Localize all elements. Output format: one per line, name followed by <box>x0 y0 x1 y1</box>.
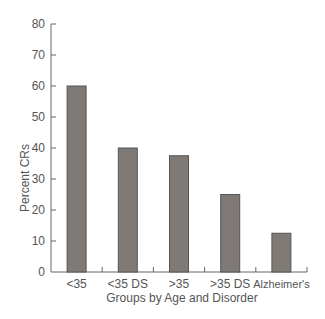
bar <box>272 233 291 272</box>
y-tick-label: 30 <box>32 172 46 186</box>
x-tick-label: >35 DS <box>210 277 250 291</box>
bars <box>67 86 291 272</box>
bar <box>67 86 86 272</box>
x-tick-label: <35 <box>66 277 87 291</box>
y-tick-label: 70 <box>32 48 46 62</box>
y-tick-label: 80 <box>32 17 46 31</box>
y-tick-label: 10 <box>32 234 46 248</box>
bar <box>118 148 137 272</box>
y-tick-label: 40 <box>32 141 46 155</box>
x-tick-label: <35 DS <box>108 277 148 291</box>
x-axis-title: Groups by Age and Disorder <box>106 291 257 305</box>
bar <box>170 156 189 272</box>
y-axis-title: Percent CRs <box>18 144 32 212</box>
bar <box>221 195 240 273</box>
y-axis: 01020304050607080 <box>32 17 56 279</box>
bar-chart: 01020304050607080 <35<35 DS>35>35 DSAlzh… <box>0 0 325 319</box>
y-tick-label: 60 <box>32 79 46 93</box>
x-tick-label: >35 <box>169 277 190 291</box>
y-tick-label: 0 <box>38 265 45 279</box>
y-tick-label: 50 <box>32 110 46 124</box>
y-tick-label: 20 <box>32 203 46 217</box>
x-tick-label: Alzheimer's <box>253 278 310 290</box>
